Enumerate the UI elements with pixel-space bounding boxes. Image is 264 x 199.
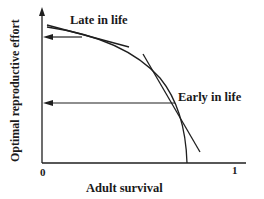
late-in-life-label: Late in life (70, 13, 128, 27)
y-axis-label: Optimal reproductive effort (8, 19, 22, 162)
y-axis-arrow-icon (39, 7, 45, 16)
tradeoff-curve (47, 27, 187, 163)
x-axis-label: Adult survival (86, 181, 163, 195)
x-tick-1: 1 (232, 164, 238, 176)
late-in-life-arrowhead-icon (43, 34, 53, 40)
late-in-life-tangent (47, 25, 129, 47)
x-tick-0: 0 (40, 166, 46, 178)
life-history-tradeoff-figure: Late in life Early in life 0 1 Adult sur… (0, 0, 264, 199)
early-in-life-arrowhead-icon (43, 100, 53, 106)
early-in-life-label: Early in life (178, 90, 242, 104)
